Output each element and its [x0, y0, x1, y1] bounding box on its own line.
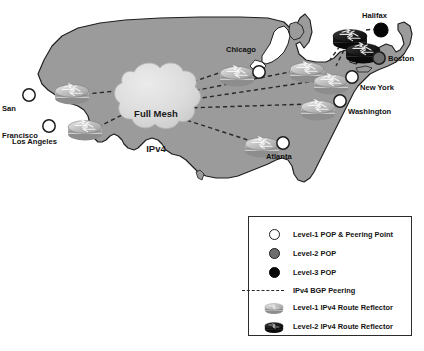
- legend-item-level-2-pop: Level-2 POP: [263, 246, 336, 260]
- pop-node-atlanta: [277, 137, 289, 149]
- legend-panel: Level-1 POP & Peering Point Level-2 POP …: [248, 216, 412, 336]
- level-2-pop-dot-icon: [263, 248, 285, 259]
- pop-node-new-york: [346, 71, 358, 83]
- cloud-label-line2: IPv4: [118, 143, 194, 155]
- city-label-atlanta: Atlanta: [266, 152, 292, 161]
- pop-node-chicago: [253, 66, 265, 78]
- level-2-router-icon: [263, 319, 285, 334]
- legend-item-level-2-route-reflector: Level-2 IPv4 Route Reflector: [263, 319, 393, 333]
- router-los-angeles: [68, 120, 102, 141]
- pop-node-halifax: [374, 23, 388, 37]
- legend-item-level-1-pop-label: Level-1 POP & Peering Point: [293, 230, 393, 239]
- city-label-chicago: Chicago: [226, 45, 256, 54]
- legend-item-level-3-pop-label: Level-3 POP: [293, 268, 336, 277]
- router-chicago: [220, 66, 254, 87]
- city-label-new-york: New York: [360, 83, 394, 92]
- legend-item-level-3-pop: Level-3 POP: [263, 265, 336, 279]
- legend-item-level-1-route-reflector-label: Level-1 IPv4 Route Reflector: [293, 303, 393, 312]
- level-3-pop-dot-icon: [263, 267, 285, 278]
- level-1-router-icon: [263, 300, 285, 315]
- city-label-los-angeles: Los Angeles: [12, 137, 57, 146]
- dashed-line-icon: [251, 290, 285, 291]
- cloud-label-line1: Full Mesh: [118, 108, 194, 120]
- pop-node-washington: [334, 95, 346, 107]
- router-new-york: [314, 74, 348, 95]
- city-label-san-francisco: San Francisco: [2, 86, 38, 158]
- city-label-boston: Boston: [388, 54, 414, 63]
- city-label-halifax: Halifax: [362, 11, 387, 20]
- router-washington: [301, 100, 335, 121]
- legend-item-level-1-route-reflector: Level-1 IPv4 Route Reflector: [263, 300, 393, 314]
- pop-node-los-angeles: [43, 120, 55, 132]
- legend-item-level-2-pop-label: Level-2 POP: [293, 249, 336, 258]
- level-1-pop-dot-icon: [263, 229, 285, 240]
- legend-item-level-2-route-reflector-label: Level-2 IPv4 Route Reflector: [293, 322, 393, 331]
- legend-item-level-1-pop: Level-1 POP & Peering Point: [263, 227, 393, 241]
- diagram-canvas: Full Mesh IPv4 San Francisco Los Angeles…: [0, 0, 424, 351]
- city-label-washington: Washington: [348, 107, 391, 116]
- city-label-san-francisco-line1: San: [2, 104, 38, 113]
- cloud-label-full-mesh: Full Mesh IPv4: [118, 85, 194, 177]
- router-san-francisco: [55, 84, 89, 105]
- legend-item-bgp-peering-label: IPv4 BGP Peering: [293, 286, 355, 295]
- legend-item-bgp-peering: IPv4 BGP Peering: [251, 283, 355, 297]
- pop-node-boston: [373, 52, 385, 64]
